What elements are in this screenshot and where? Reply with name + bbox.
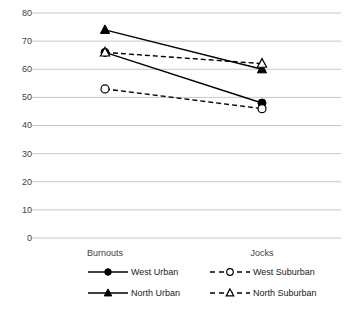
legend-glyphs-group: [88, 269, 250, 296]
series-line: [105, 30, 262, 69]
data-point-marker-open-circle: [101, 85, 109, 93]
data-point-marker-filled-circle: [105, 269, 112, 276]
series-line: [105, 89, 262, 109]
gridlines-group: [32, 13, 341, 238]
data-point-marker-filled-triangle: [100, 25, 109, 34]
series-line: [105, 52, 262, 63]
data-point-marker-open-circle: [227, 269, 234, 276]
line-chart: 80 70 60 50 40 30 20 10 0 Burnouts Jocks…: [0, 0, 353, 313]
series-line: [105, 52, 262, 103]
plot-area: [0, 0, 353, 313]
data-point-marker-open-circle: [258, 105, 266, 113]
